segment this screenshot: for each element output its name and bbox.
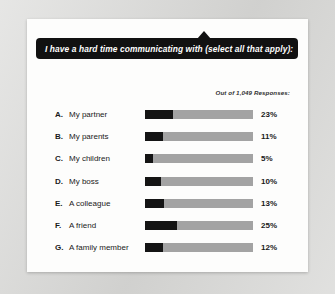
answer-bar-track	[145, 177, 253, 186]
answer-bar-fill	[145, 243, 163, 252]
answer-letter: D.	[55, 177, 68, 186]
answer-percentage: 11%	[261, 132, 277, 141]
answer-percentage: 5%	[261, 154, 273, 163]
answer-row-d: D. My boss 10%	[27, 174, 308, 196]
answer-bar-fill	[145, 221, 177, 230]
answer-bar-track	[145, 199, 253, 208]
answer-percentage: 12%	[261, 243, 277, 252]
answer-bar-fill	[145, 110, 173, 119]
answer-label: My boss	[69, 177, 99, 186]
answer-percentage: 13%	[261, 199, 277, 208]
banner-pointer-triangle-icon	[197, 31, 211, 39]
answer-percentage: 10%	[261, 177, 277, 186]
answer-row-e: E. A colleague 13%	[27, 196, 308, 218]
answer-percentage: 25%	[261, 221, 277, 230]
question-banner: I have a hard time communicating with (s…	[36, 38, 298, 59]
answer-letter: C.	[55, 154, 68, 163]
answer-bar-track	[145, 221, 253, 230]
survey-result-card: I have a hard time communicating with (s…	[27, 19, 308, 272]
answer-row-c: C. My children 5%	[27, 151, 308, 173]
banner-body: I have a hard time communicating with (s…	[36, 38, 298, 59]
answer-label: A colleague	[69, 199, 110, 208]
answer-bar-track	[145, 110, 253, 119]
answer-letter: A.	[55, 110, 68, 119]
answer-letter: F.	[55, 221, 68, 230]
answer-letter: B.	[55, 132, 68, 141]
answer-label: A family member	[69, 243, 129, 252]
answer-label: My children	[69, 154, 110, 163]
answer-row-b: B. My parents 11%	[27, 129, 308, 151]
answer-bar-track	[145, 154, 253, 163]
question-text: I have a hard time communicating with (s…	[45, 44, 293, 54]
answer-bar-list: A. My partner 23% B. My parents 11% C. M…	[27, 107, 308, 262]
answer-label: My partner	[69, 110, 107, 119]
answer-bar-track	[145, 132, 253, 141]
answer-bar-fill	[145, 177, 161, 186]
answer-label: My parents	[69, 132, 109, 141]
answer-row-a: A. My partner 23%	[27, 107, 308, 129]
answer-row-g: G. A family member 12%	[27, 240, 308, 262]
answer-label: A friend	[69, 221, 96, 230]
answer-row-f: F. A friend 25%	[27, 218, 308, 240]
answer-bar-fill	[145, 154, 153, 163]
answer-bar-fill	[145, 132, 163, 141]
answer-bar-fill	[145, 199, 164, 208]
answer-letter: E.	[55, 199, 68, 208]
response-count-label: Out of 1,049 Responses:	[27, 89, 290, 96]
answer-letter: G.	[55, 243, 68, 252]
answer-percentage: 23%	[261, 110, 277, 119]
answer-bar-track	[145, 243, 253, 252]
